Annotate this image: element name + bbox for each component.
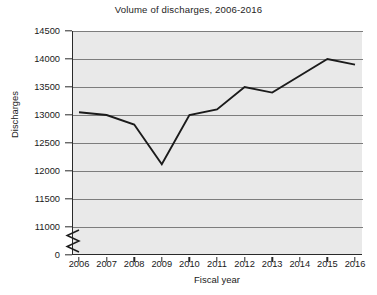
gridline: [73, 171, 363, 172]
y-axis-tick-label: 11500: [35, 194, 60, 204]
y-axis-tick-mark: [65, 86, 72, 87]
chart-title: Volume of discharges, 2006-2016: [0, 4, 377, 15]
y-axis-tick-mark: [65, 198, 72, 199]
x-axis-tick-label: 2015: [317, 259, 338, 269]
y-axis-tick-label: 11000: [35, 222, 60, 232]
x-axis: 2006200720082009201020112012201320142015…: [72, 257, 362, 273]
gridline: [73, 115, 363, 116]
x-axis-tick-label: 2016: [345, 259, 366, 269]
y-axis-tick-mark: [65, 30, 72, 31]
x-axis-tick-label: 2007: [96, 259, 117, 269]
y-axis-tick-mark: [65, 142, 72, 143]
gridline: [73, 31, 363, 32]
gridline: [73, 227, 363, 228]
x-axis-tick-label: 2008: [124, 259, 145, 269]
gridline: [73, 87, 363, 88]
x-axis-tick-label: 2009: [151, 259, 172, 269]
x-axis-tick-label: 2010: [179, 259, 200, 269]
gridline: [73, 143, 363, 144]
y-axis-tick-mark: [65, 254, 72, 255]
plot-area: [72, 31, 362, 255]
x-axis-tick-label: 2014: [289, 259, 310, 269]
y-axis-tick-label: 0: [55, 250, 60, 260]
x-axis-tick-label: 2011: [207, 259, 227, 269]
y-axis-tick-label: 13500: [34, 82, 60, 92]
line-chart-figure: Volume of discharges, 2006-2016 14500140…: [0, 0, 377, 295]
y-axis-tick-mark: [65, 58, 72, 59]
x-axis-tick-label: 2013: [262, 259, 283, 269]
y-axis-tick-mark: [65, 170, 72, 171]
gridline: [73, 199, 363, 200]
x-axis-tick-label: 2006: [69, 259, 90, 269]
y-axis-tick-label: 14500: [34, 26, 60, 36]
y-axis-tick-mark: [65, 114, 72, 115]
x-axis-title: Fiscal year: [72, 274, 362, 285]
x-axis-tick-label: 2012: [234, 259, 255, 269]
y-axis-tick-label: 14000: [34, 54, 60, 64]
y-axis-tick-label: 13000: [34, 110, 60, 120]
y-axis-tick-mark: [65, 226, 72, 227]
y-axis-tick-label: 12000: [34, 166, 60, 176]
gridline: [73, 59, 363, 60]
y-axis-tick-label: 12500: [34, 138, 60, 148]
y-axis-title: Discharges: [9, 55, 20, 175]
